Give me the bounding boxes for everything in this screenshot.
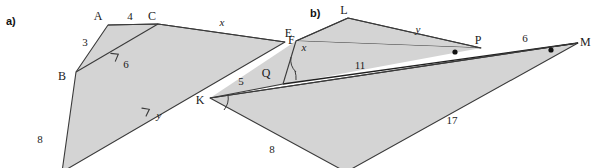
part-label-b: b): [310, 7, 321, 19]
vertex-label-b-P: P: [475, 33, 482, 47]
figure-page: a) A C E B 3 4 6 8 x y: [0, 0, 592, 168]
measure-label-b-kn: 8: [269, 143, 275, 155]
vertex-label-b-E: E: [285, 26, 292, 40]
point-marker-near-m: [548, 47, 553, 52]
measure-label-a-bc: 6: [123, 58, 129, 70]
vertex-label-a-A: A: [94, 9, 103, 23]
measure-label-b-pm: 6: [522, 32, 528, 44]
point-marker-near-p: [452, 49, 457, 54]
vertex-label-b-L: L: [340, 3, 347, 17]
measure-label-a-bd: 8: [37, 133, 43, 145]
vertex-label-a-C: C: [148, 9, 156, 23]
vertex-label-b-Q: Q: [262, 66, 271, 80]
measure-label-b-nm: 17: [447, 114, 459, 126]
measure-label-b-lp: y: [415, 23, 421, 35]
measure-label-b-el: x: [301, 41, 307, 53]
part-label-a: a): [6, 15, 16, 27]
measure-label-b-kq: 5: [238, 75, 244, 87]
geometry-figure-svg: a) A C E B 3 4 6 8 x y: [0, 0, 592, 168]
measure-label-a-ab: 3: [82, 36, 88, 48]
measure-label-b-qp: 11: [355, 59, 366, 71]
measure-label-a-de: y: [156, 109, 162, 121]
measure-label-a-ce: x: [219, 16, 225, 28]
vertex-label-b-K: K: [196, 93, 205, 107]
measure-label-a-ac: 4: [127, 10, 133, 22]
vertex-label-b-M: M: [580, 35, 591, 49]
vertex-label-a-B: B: [58, 69, 66, 83]
diagram-b: b) L P M K Q E x y 11 6 17 5 8: [196, 3, 591, 168]
